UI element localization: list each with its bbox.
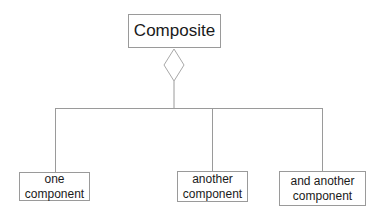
component-label-line1: another bbox=[183, 172, 242, 186]
component-box-3: and another component bbox=[279, 171, 366, 206]
aggregation-diamond-icon bbox=[164, 49, 184, 81]
component-label-line1: one bbox=[25, 172, 84, 186]
component-box-1: one component bbox=[19, 172, 90, 201]
component-box-2: another component bbox=[177, 171, 248, 202]
component-label-line2: component bbox=[183, 187, 242, 201]
component-label-line2: component bbox=[290, 189, 354, 203]
composite-class-box: Composite bbox=[128, 14, 221, 48]
component-label-line1: and another bbox=[290, 174, 354, 188]
component-label-line2: component bbox=[25, 187, 84, 201]
composite-label: Composite bbox=[134, 21, 215, 41]
